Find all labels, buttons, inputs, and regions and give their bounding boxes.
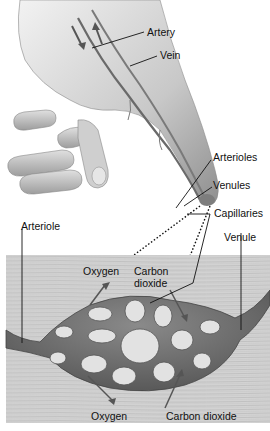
hand-illustration	[8, 0, 219, 206]
label-carbon-top-2: dioxide	[134, 277, 167, 289]
label-arteriole: Arteriole	[21, 220, 60, 232]
label-venules: Venules	[213, 179, 250, 191]
label-vein: Vein	[160, 49, 180, 61]
label-arterioles: Arterioles	[213, 151, 257, 163]
label-venule: Venule	[224, 231, 256, 243]
label-oxygen-bottom: Oxygen	[91, 410, 127, 422]
label-artery: Artery	[147, 26, 175, 38]
label-capillaries: Capillaries	[214, 207, 263, 219]
zoom-guide-left	[134, 206, 200, 255]
zoom-guide-right	[190, 206, 210, 256]
label-carbon-top-1: Carbon	[134, 265, 168, 277]
label-carbon-dioxide-bottom: Carbon dioxide	[166, 410, 237, 422]
label-oxygen-top: Oxygen	[83, 265, 119, 277]
